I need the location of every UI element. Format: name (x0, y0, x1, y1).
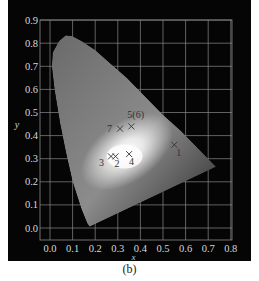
svg-text:0.4: 0.4 (134, 243, 148, 254)
svg-text:0.7: 0.7 (202, 243, 215, 254)
cie-chart: 0.00.10.20.30.40.50.60.70.80.00.10.20.30… (8, 0, 251, 261)
svg-text:0.1: 0.1 (66, 243, 79, 254)
svg-text:7: 7 (107, 123, 112, 134)
svg-text:0.8: 0.8 (25, 38, 38, 49)
svg-text:4: 4 (129, 156, 134, 167)
chromaticity-figure: 0.00.10.20.30.40.50.60.70.80.00.10.20.30… (8, 0, 251, 261)
svg-text:0.8: 0.8 (224, 243, 237, 254)
figure-caption: (b) (0, 262, 259, 277)
svg-text:0.1: 0.1 (25, 199, 38, 210)
svg-text:0.2: 0.2 (25, 176, 38, 187)
svg-text:0.4: 0.4 (25, 130, 39, 141)
svg-text:0.6: 0.6 (25, 84, 38, 95)
svg-text:0.7: 0.7 (25, 61, 38, 72)
svg-text:1: 1 (176, 147, 181, 158)
x-axis-label: x (131, 252, 136, 261)
svg-text:0.2: 0.2 (89, 243, 102, 254)
svg-text:0.6: 0.6 (179, 243, 192, 254)
svg-text:0.0: 0.0 (43, 243, 56, 254)
spectral-locus (52, 35, 216, 227)
svg-text:0.5: 0.5 (25, 107, 38, 118)
svg-text:5(6): 5(6) (127, 109, 144, 121)
svg-text:0.5: 0.5 (156, 243, 169, 254)
svg-text:0.0: 0.0 (25, 223, 38, 234)
svg-text:0.9: 0.9 (25, 15, 38, 26)
svg-text:2: 2 (115, 158, 120, 169)
svg-text:0.3: 0.3 (25, 153, 38, 164)
y-axis-label: y (14, 119, 20, 130)
svg-text:0.3: 0.3 (111, 243, 124, 254)
svg-text:3: 3 (99, 157, 104, 168)
